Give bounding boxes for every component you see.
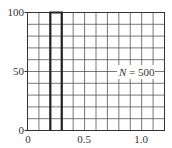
x-tick-0: 0: [25, 133, 31, 145]
histogram-chart: 100 50 0 0 0.5 1.0 N = 500: [0, 0, 172, 148]
y-tick-100: 100: [8, 6, 25, 18]
x-tick-0.5: 0.5: [77, 133, 91, 145]
y-tick-0: 0: [19, 124, 25, 136]
y-tick-50: 50: [13, 65, 25, 77]
x-tick-1.0: 1.0: [134, 133, 148, 145]
sample-size-annotation: N = 500: [118, 66, 155, 78]
